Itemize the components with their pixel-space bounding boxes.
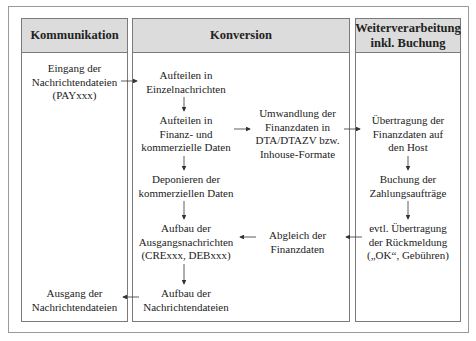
flow-arrows bbox=[0, 0, 476, 341]
